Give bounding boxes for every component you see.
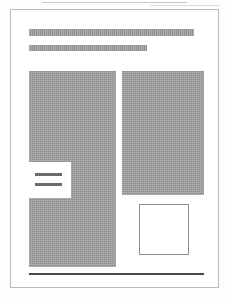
right-column-content-block bbox=[122, 71, 204, 195]
footer-horizontal-rule bbox=[29, 273, 204, 275]
callout-rule-line-2 bbox=[35, 183, 62, 186]
callout-rule-line-1 bbox=[35, 173, 62, 176]
scan-streak-artifact bbox=[42, 2, 187, 3]
subtitle-text-line bbox=[29, 45, 147, 51]
page-sheet bbox=[10, 9, 219, 288]
inset-callout-box bbox=[29, 162, 71, 198]
title-text-line bbox=[29, 29, 194, 36]
scan-streak-artifact-secondary bbox=[150, 5, 220, 6]
empty-figure-box bbox=[139, 204, 189, 255]
scanned-page-thumbnail bbox=[0, 0, 231, 298]
